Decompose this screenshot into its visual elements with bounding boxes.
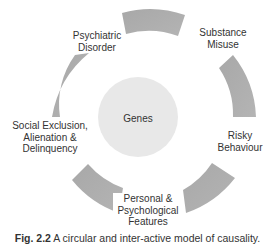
node-label-line: Social Exclusion, xyxy=(4,120,96,132)
node-label-line: Disorder xyxy=(62,42,132,54)
arc-segment-upper-left xyxy=(52,53,89,117)
node-label-line: Delinquency xyxy=(4,143,96,155)
node-label-line: Misuse xyxy=(188,39,258,51)
node-substance-misuse: Substance Misuse xyxy=(188,27,258,50)
node-personal-psychological-features: Personal & Psychological Features xyxy=(113,193,183,228)
figure-caption: Fig. 2.2 A circular and inter-active mod… xyxy=(0,232,275,244)
node-label-line: Psychiatric xyxy=(62,30,132,42)
node-label-line: Personal & xyxy=(113,193,183,205)
node-label-line: Psychological xyxy=(113,205,183,217)
node-label-line: Behaviour xyxy=(208,142,272,154)
node-label-line: Features xyxy=(113,216,183,228)
node-psychiatric-disorder: Psychiatric Disorder xyxy=(62,30,132,53)
arc-segment-upper-right xyxy=(219,55,256,117)
node-label-line: Alienation & xyxy=(4,132,96,144)
node-label-line: Risky xyxy=(208,130,272,142)
figure-number: Fig. 2.2 xyxy=(15,232,51,244)
node-social-exclusion: Social Exclusion, Alienation & Delinquen… xyxy=(4,120,96,155)
arc-segment-lower-right xyxy=(183,163,235,213)
node-label-line: Substance xyxy=(188,27,258,39)
genes-label: Genes xyxy=(118,113,158,125)
caption-text: A circular and inter-active model of cau… xyxy=(51,232,260,244)
node-risky-behaviour: Risky Behaviour xyxy=(208,130,272,153)
node-genes: Genes xyxy=(118,113,158,125)
